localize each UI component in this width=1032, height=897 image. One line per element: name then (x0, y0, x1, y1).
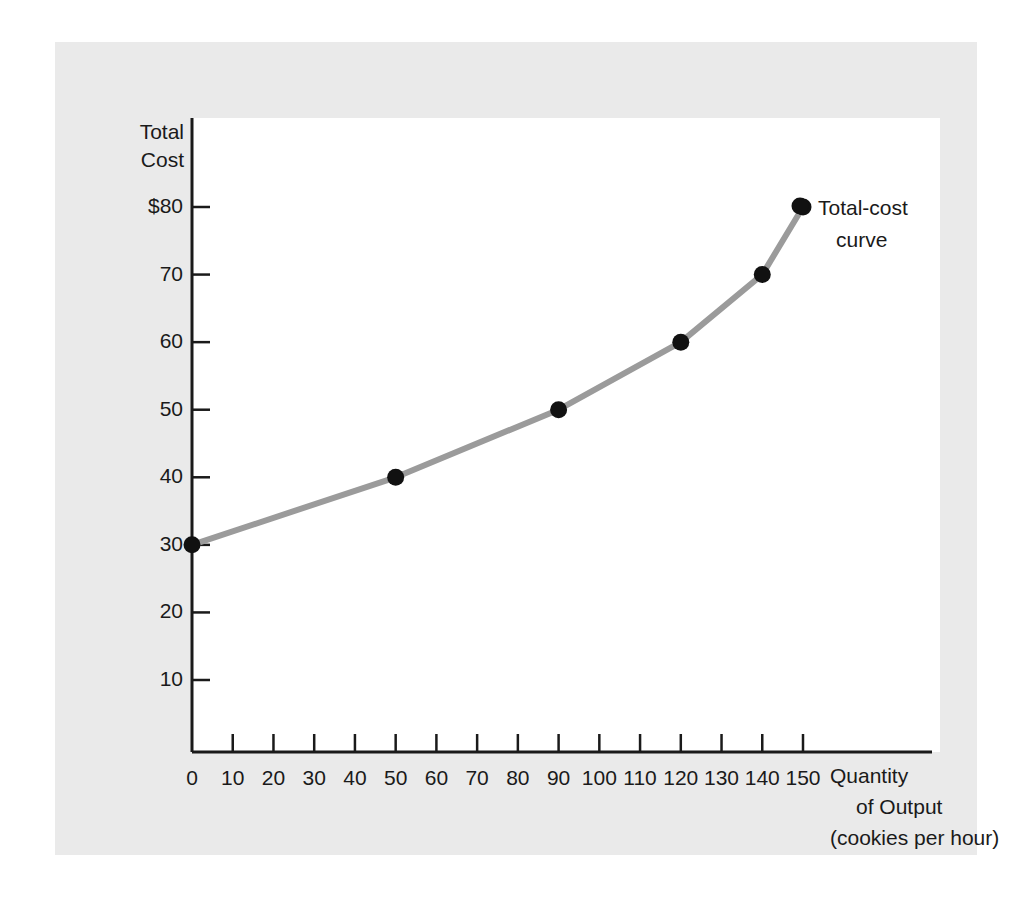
total-cost-curve-line (192, 207, 803, 545)
data-point-marker (672, 334, 689, 351)
data-point-marker (387, 469, 404, 486)
chart-page: Total Cost Quantity of Output (cookies p… (0, 0, 1032, 897)
y-tick-label: 40 (60, 464, 183, 488)
data-point-marker (754, 266, 771, 283)
y-tick-label: 70 (60, 262, 183, 286)
y-tick-label: 30 (60, 532, 183, 556)
axes-group (192, 118, 932, 752)
y-tick-label: 20 (60, 599, 183, 623)
y-tick-label: 60 (60, 329, 183, 353)
total-cost-curve (184, 199, 812, 554)
x-ticks-group (233, 734, 803, 752)
total-cost-curve-markers (184, 199, 812, 554)
y-ticks-group (192, 207, 210, 680)
annotation-bullet-icon (792, 198, 809, 215)
chart-svg (0, 0, 1032, 897)
y-tick-label: 50 (60, 397, 183, 421)
y-tick-label: $80 (60, 194, 183, 218)
data-point-marker (184, 536, 201, 553)
y-tick-label: 10 (60, 667, 183, 691)
data-point-marker (550, 401, 567, 418)
annotation-marker (792, 198, 809, 215)
x-tick-label: 150 (773, 766, 833, 790)
